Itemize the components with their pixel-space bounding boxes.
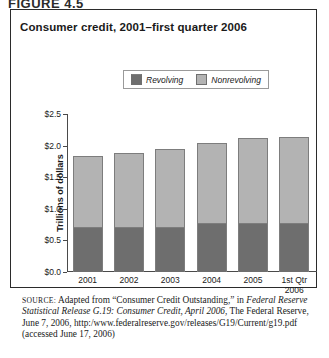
- legend-swatch-revolving: [131, 74, 142, 85]
- x-axis-labels: 200120022003200420051st Qtr2006: [67, 275, 315, 295]
- source-text-1: Adapted from “Consumer Credit Outstandin…: [56, 295, 246, 305]
- source-kicker: SOURCE:: [22, 296, 56, 305]
- bar-segment-nonrevolving: [73, 156, 103, 227]
- bar-group: [67, 114, 315, 272]
- y-tick-label: $2.5: [44, 109, 61, 119]
- x-tick-label: 2004: [197, 275, 227, 295]
- legend-label-revolving: Revolving: [146, 75, 183, 85]
- figure-page: FIGURE 4.5 Consumer credit, 2001–first q…: [0, 0, 329, 358]
- legend-swatch-nonrevolving: [196, 74, 207, 85]
- x-tick-label: 2002: [114, 275, 144, 295]
- bar-segment-nonrevolving: [114, 153, 144, 226]
- legend-item-revolving: Revolving: [131, 74, 183, 85]
- bar-segment-revolving: [197, 223, 227, 272]
- x-tick-label: 1st Qtr2006: [279, 275, 309, 295]
- x-tick-label: 2003: [155, 275, 185, 295]
- bar-segment-revolving: [279, 223, 309, 272]
- y-axis-title: Trillions of dollars: [55, 154, 65, 232]
- figure-box: Consumer credit, 2001–first quarter 2006…: [10, 9, 317, 288]
- y-tick: [63, 272, 67, 273]
- plot-area: Trillions of dollars $0.0$0.5$1.0$1.5$2.…: [67, 114, 315, 272]
- x-tick-label: 2005: [238, 275, 268, 295]
- bar-column: [279, 114, 309, 272]
- bar-column: [114, 114, 144, 272]
- legend-item-nonrevolving: Nonrevolving: [196, 74, 261, 85]
- y-tick-label: $0.5: [44, 235, 61, 245]
- bar-segment-revolving: [114, 227, 144, 273]
- chart-legend: Revolving Nonrevolving: [123, 70, 269, 89]
- bar-segment-revolving: [155, 227, 185, 273]
- bar-segment-nonrevolving: [238, 138, 268, 223]
- chart-title: Consumer credit, 2001–first quarter 2006: [20, 21, 247, 33]
- y-tick-label: $1.5: [44, 172, 61, 182]
- bar-segment-nonrevolving: [155, 149, 185, 227]
- source-note: SOURCE: Adapted from “Consumer Credit Ou…: [22, 295, 310, 341]
- legend-label-nonrevolving: Nonrevolving: [211, 75, 261, 85]
- x-tick-label: 2001: [73, 275, 103, 295]
- bar-segment-revolving: [238, 223, 268, 272]
- bar-column: [73, 114, 103, 272]
- bar-column: [238, 114, 268, 272]
- bar-column: [155, 114, 185, 272]
- bar-segment-nonrevolving: [279, 137, 309, 223]
- bar-column: [197, 114, 227, 272]
- y-tick-label: $0.0: [44, 267, 61, 277]
- bar-segment-nonrevolving: [197, 143, 227, 223]
- y-tick-label: $1.0: [44, 204, 61, 214]
- bar-segment-revolving: [73, 227, 103, 273]
- y-tick-label: $2.0: [44, 141, 61, 151]
